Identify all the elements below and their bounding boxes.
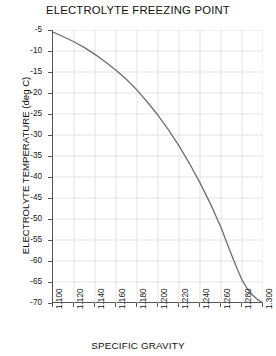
- x-axis-tick-labels: 1.1001.1201.1401.1601.1801.2001.2201.240…: [52, 309, 262, 337]
- x-tick-mark: [262, 303, 263, 307]
- plot-area: [52, 30, 262, 303]
- y-axis-tick-labels: -5-10-15-20-25-30-35-40-45-50-55-60-65-7…: [0, 30, 48, 303]
- y-tick-label: -60: [30, 257, 42, 265]
- y-tick-label: -25: [30, 110, 42, 118]
- y-tick-label: -35: [30, 152, 42, 160]
- y-tick-label: -45: [30, 194, 42, 202]
- x-tick-label: 1.200: [161, 289, 169, 310]
- y-tick-label: -70: [30, 299, 42, 307]
- x-tick-mark: [220, 303, 221, 307]
- chart-title: ELECTROLYTE FREEZING POINT: [0, 4, 276, 16]
- x-tick-label: 1.260: [224, 289, 232, 310]
- x-tick-mark: [52, 303, 53, 307]
- y-tick-label: -65: [30, 278, 42, 286]
- y-tick-label: -30: [30, 131, 42, 139]
- x-tick-mark: [136, 303, 137, 307]
- y-tick-label: -40: [30, 173, 42, 181]
- x-tick-mark: [199, 303, 200, 307]
- y-tick-label: -10: [30, 47, 42, 55]
- grid-lines: [53, 30, 263, 303]
- x-tick-mark: [94, 303, 95, 307]
- x-tick-mark: [178, 303, 179, 307]
- y-tick-label: -20: [30, 89, 42, 97]
- x-tick-mark: [115, 303, 116, 307]
- x-tick-mark: [157, 303, 158, 307]
- x-tick-label: 1.280: [245, 289, 253, 310]
- y-tick-label: -55: [30, 236, 42, 244]
- x-tick-label: 1.300: [266, 289, 274, 310]
- y-tick-label: -5: [35, 26, 42, 34]
- y-tick-label: -50: [30, 215, 42, 223]
- x-tick-mark: [241, 303, 242, 307]
- x-tick-label: 1.240: [203, 289, 211, 310]
- x-axis-title: SPECIFIC GRAVITY: [0, 340, 276, 351]
- x-tick-label: 1.100: [56, 289, 64, 310]
- chart-figure: ELECTROLYTE FREEZING POINT ELECTROLYTE T…: [0, 0, 276, 356]
- plot-svg: [53, 30, 263, 303]
- x-tick-mark: [73, 303, 74, 307]
- x-tick-label: 1.180: [140, 289, 148, 310]
- y-tick-label: -15: [30, 68, 42, 76]
- x-tick-label: 1.160: [119, 289, 127, 310]
- x-tick-label: 1.120: [77, 289, 85, 310]
- x-tick-label: 1.140: [98, 289, 106, 310]
- x-tick-label: 1.220: [182, 289, 190, 310]
